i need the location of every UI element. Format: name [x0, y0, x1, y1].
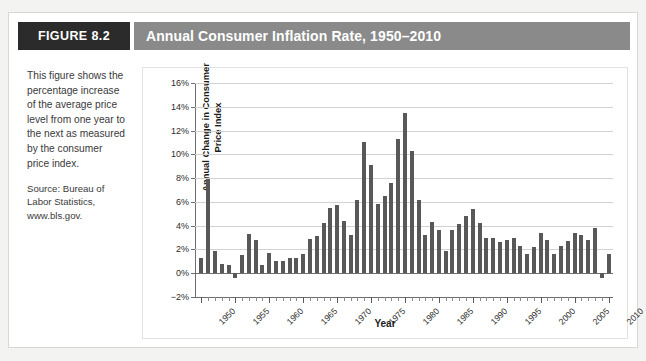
bar	[552, 254, 556, 273]
x-tick-minor	[242, 297, 243, 301]
bar	[532, 247, 536, 273]
x-tick-minor	[595, 297, 596, 301]
x-tick-minor	[330, 297, 331, 301]
bar	[573, 233, 577, 273]
y-tick-label: 14%	[171, 102, 189, 112]
y-tick-label: 2%	[176, 244, 189, 254]
x-tick-minor	[500, 297, 501, 301]
chart-panel: Annual Change in Consumer Price Index −2…	[142, 67, 628, 339]
x-tick-minor	[425, 297, 426, 301]
x-tick-major	[337, 297, 338, 303]
bar	[288, 258, 292, 273]
bar	[464, 216, 468, 273]
x-tick-minor	[256, 297, 257, 301]
bar	[593, 228, 597, 273]
figure-number-badge: FIGURE 8.2	[18, 22, 130, 50]
x-tick-minor	[378, 297, 379, 301]
x-tick-minor	[432, 297, 433, 301]
bar	[227, 265, 231, 273]
x-tick-minor	[385, 297, 386, 301]
bar	[260, 265, 264, 273]
x-tick-major	[201, 297, 202, 303]
bar	[199, 258, 203, 273]
x-tick-minor	[602, 297, 603, 301]
x-tick-major	[235, 297, 236, 303]
x-tick-major	[303, 297, 304, 303]
bar	[471, 209, 475, 273]
bar	[294, 258, 298, 273]
x-axis-title: Year	[143, 318, 627, 329]
x-tick-minor	[520, 297, 521, 301]
x-tick-major	[575, 297, 576, 303]
x-tick-minor	[588, 297, 589, 301]
bar	[281, 261, 285, 273]
bar	[457, 224, 461, 273]
bar	[349, 235, 353, 273]
x-axis-ticks	[195, 297, 613, 303]
bar	[423, 235, 427, 273]
caption-source: Source: Bureau of Labor Statistics, www.…	[27, 182, 127, 222]
x-tick-minor	[310, 297, 311, 301]
x-tick-minor	[249, 297, 250, 301]
x-tick-minor	[568, 297, 569, 301]
plot-area: −2%0%2%4%6%8%10%12%14%16%	[195, 83, 613, 297]
x-tick-minor	[561, 297, 562, 301]
bar	[512, 238, 516, 274]
bar	[240, 255, 244, 273]
y-tick-label: 16%	[171, 78, 189, 88]
bar	[308, 239, 312, 273]
x-tick-minor	[547, 297, 548, 301]
x-tick-label: 2010	[624, 306, 645, 327]
x-tick-minor	[222, 297, 223, 301]
y-tick-label: −2%	[171, 292, 189, 302]
x-tick-minor	[493, 297, 494, 301]
bar	[376, 204, 380, 273]
x-tick-minor	[527, 297, 528, 301]
x-tick-minor	[229, 297, 230, 301]
bar	[383, 196, 387, 273]
bar	[355, 200, 359, 274]
bar	[607, 254, 611, 273]
y-tick-label: 4%	[176, 221, 189, 231]
x-tick-major	[609, 297, 610, 303]
bar	[518, 246, 522, 273]
x-tick-minor	[276, 297, 277, 301]
x-tick-minor	[317, 297, 318, 301]
x-tick-minor	[514, 297, 515, 301]
figure-card: FIGURE 8.2 Annual Consumer Inflation Rat…	[8, 12, 638, 348]
x-tick-minor	[459, 297, 460, 301]
bar	[396, 139, 400, 273]
x-tick-minor	[208, 297, 209, 301]
bar	[410, 151, 414, 273]
bar	[498, 242, 502, 273]
figure-caption: This figure shows the percentage increas…	[27, 69, 127, 222]
x-tick-minor	[534, 297, 535, 301]
bar	[525, 254, 529, 273]
bar	[233, 273, 237, 278]
bar	[484, 238, 488, 274]
x-tick-major	[269, 297, 270, 303]
bar	[505, 240, 509, 273]
bar	[342, 221, 346, 273]
x-tick-minor	[398, 297, 399, 301]
y-tick-label: 0%	[176, 268, 189, 278]
x-tick-minor	[419, 297, 420, 301]
caption-text: This figure shows the percentage increas…	[27, 69, 127, 171]
bar	[322, 223, 326, 273]
bar	[559, 246, 563, 273]
bar	[450, 230, 454, 273]
bar	[444, 251, 448, 274]
x-tick-minor	[452, 297, 453, 301]
x-tick-minor	[446, 297, 447, 301]
x-tick-major	[439, 297, 440, 303]
x-tick-minor	[581, 297, 582, 301]
figure-header: FIGURE 8.2 Annual Consumer Inflation Rat…	[18, 22, 630, 50]
x-tick-minor	[215, 297, 216, 301]
x-tick-minor	[486, 297, 487, 301]
x-tick-major	[405, 297, 406, 303]
bar	[254, 240, 258, 273]
bar	[362, 142, 366, 273]
x-tick-minor	[344, 297, 345, 301]
x-tick-minor	[324, 297, 325, 301]
x-tick-minor	[554, 297, 555, 301]
